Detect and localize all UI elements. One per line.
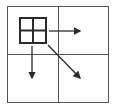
arrow-diagonal-icon	[48, 45, 80, 78]
source-cell-grid-icon	[20, 18, 46, 43]
fill-cells-icon	[0, 0, 114, 110]
